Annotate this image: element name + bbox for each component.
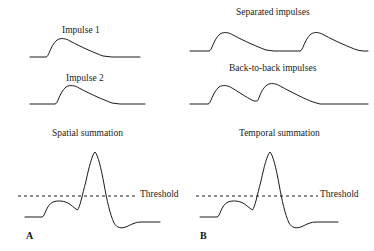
spatial-summation-label: Spatial summation <box>52 129 123 139</box>
panel-letter-b: B <box>200 231 207 241</box>
impulse-2-label: Impulse 2 <box>66 74 104 84</box>
neural-summation-figure: Impulse 1 Impulse 2 Separated impulses B… <box>0 0 374 251</box>
separated-impulses-trace <box>190 33 368 51</box>
threshold-label-b: Threshold <box>320 190 359 200</box>
temporal-summation-trace <box>200 152 338 228</box>
back-to-back-impulses-trace <box>190 84 368 104</box>
impulse-2-trace <box>30 86 145 104</box>
impulse-1-label: Impulse 1 <box>62 26 100 36</box>
impulse-1-trace <box>30 39 140 57</box>
panel-letter-a: A <box>26 231 33 241</box>
temporal-summation-label: Temporal summation <box>239 129 320 139</box>
threshold-label-a: Threshold <box>140 190 179 200</box>
figure-canvas <box>0 0 374 251</box>
separated-impulses-label: Separated impulses <box>236 8 310 18</box>
back-to-back-impulses-label: Back-to-back impulses <box>229 64 316 74</box>
